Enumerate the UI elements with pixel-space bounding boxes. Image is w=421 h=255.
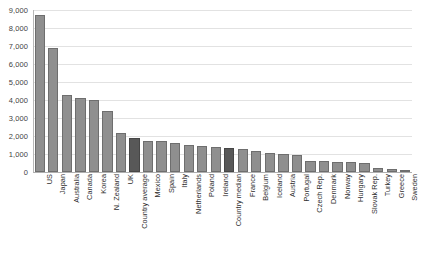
x-axis-tick-label: Italy <box>178 174 187 188</box>
bar-canada <box>75 98 85 172</box>
gridline <box>33 172 412 173</box>
bar-uk <box>116 133 126 172</box>
x-axis-tick-label: Australia <box>70 174 79 203</box>
bar-ireland <box>211 147 221 172</box>
bar-n-zealand <box>102 111 112 172</box>
x-axis-tick-label: Spain <box>165 174 174 193</box>
bar-iceland <box>265 153 275 172</box>
x-axis: USJapanAustraliaCanadaKoreaN. ZealandUKC… <box>33 174 412 255</box>
bar-france <box>238 149 248 172</box>
bar-austria <box>278 154 288 172</box>
x-axis-tick-label: UK <box>124 174 133 184</box>
y-axis-tick-label: 7,000 <box>9 42 28 51</box>
plot-area <box>33 10 412 172</box>
bar-czech-rep <box>305 161 315 172</box>
x-axis-tick-label: Poland <box>205 174 214 197</box>
x-axis-tick-label: Slovak Rep. <box>368 174 377 214</box>
bar-hungary <box>346 162 356 172</box>
bar-greece <box>387 169 397 172</box>
y-axis-tick-label: 5,000 <box>9 78 28 87</box>
bar-series <box>33 10 412 172</box>
bar-country-average <box>129 138 139 172</box>
y-axis: 01,0002,0003,0004,0005,0006,0007,0008,00… <box>0 10 31 172</box>
y-axis-tick-label: 3,000 <box>9 114 28 123</box>
x-axis-tick-label: Belgium <box>259 174 268 201</box>
bar-spain <box>156 141 166 172</box>
bar-slovak-rep <box>359 163 369 172</box>
bar-us <box>35 15 45 172</box>
x-axis-tick-label: Hungary <box>354 174 363 202</box>
x-axis-tick-label: Mexico <box>151 174 160 197</box>
bar-netherlands <box>184 145 194 172</box>
bar-italy <box>170 143 180 172</box>
x-axis-tick-label: Japan <box>56 174 65 194</box>
x-axis-tick-label: Turkey <box>381 174 390 196</box>
y-axis-tick-label: 0 <box>24 168 28 177</box>
y-axis-tick-label: 2,000 <box>9 132 28 141</box>
bar-poland <box>197 146 207 172</box>
x-axis-tick-label: Denmark <box>327 174 336 204</box>
bar-denmark <box>319 161 329 172</box>
x-axis-tick-label: Ireland <box>219 174 228 197</box>
x-axis-tick-label: Sweden <box>408 174 417 201</box>
x-axis-tick-label: Iceland <box>273 174 282 198</box>
y-axis-tick-label: 1,000 <box>9 150 28 159</box>
y-axis-tick-label: 8,000 <box>9 24 28 33</box>
x-axis-tick-label: Austria <box>286 174 295 197</box>
bar-mexico <box>143 141 153 173</box>
x-axis-tick-label: Canada <box>83 174 92 200</box>
y-axis-tick-label: 9,000 <box>9 6 28 15</box>
x-axis-tick-label: Portugal <box>300 174 309 202</box>
y-axis-tick-label: 4,000 <box>9 96 28 105</box>
x-axis-tick-label: N. Zealand <box>110 174 119 210</box>
x-axis-tick-label: Greece <box>395 174 404 198</box>
bar-korea <box>89 100 99 172</box>
x-axis-tick-label: Korea <box>97 174 106 194</box>
x-axis-tick-label: Country median <box>232 174 241 226</box>
x-axis-tick-label: Netherlands <box>192 174 201 214</box>
bar-norway <box>332 162 342 172</box>
bar-belgium <box>251 151 261 172</box>
x-axis-tick-label: Country average <box>138 174 147 229</box>
y-axis-tick-label: 6,000 <box>9 60 28 69</box>
bar-japan <box>48 48 58 172</box>
bar-sweden <box>400 170 410 172</box>
bar-turkey <box>373 168 383 173</box>
bar-chart: 01,0002,0003,0004,0005,0006,0007,0008,00… <box>0 0 421 255</box>
bar-australia <box>62 95 72 172</box>
x-axis-tick-label: US <box>43 174 52 184</box>
bar-portugal <box>292 155 302 172</box>
x-axis-tick-label: Czech Rep. <box>313 174 322 213</box>
bar-country-median <box>224 148 234 172</box>
x-axis-tick-label: France <box>246 174 255 197</box>
x-axis-tick-label: Norway <box>341 174 350 199</box>
